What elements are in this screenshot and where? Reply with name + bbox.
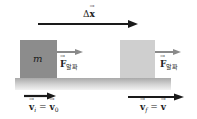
displacement-arrow: [38, 20, 138, 28]
block-final: [120, 40, 155, 78]
force-subscript: 알짜: [66, 63, 78, 70]
force-label-final: F알짜: [160, 59, 178, 69]
velocity-label-initial: vi = v0: [29, 102, 58, 112]
force-arrow-final: [155, 49, 181, 55]
equals-sign: =: [36, 102, 49, 112]
delta-symbol: Δ: [83, 9, 90, 19]
ground-surface: [15, 78, 171, 90]
velocity-sub: i: [34, 106, 36, 113]
velocity-var: v: [161, 102, 166, 112]
velocity-var: v: [49, 102, 54, 112]
velocity-sub: 0: [55, 106, 59, 113]
mass-label: m: [33, 53, 42, 64]
velocity-arrow-final: [128, 94, 184, 101]
velocity-label-final: vf = v: [140, 102, 166, 112]
displacement-label: Δx: [83, 9, 95, 19]
force-subscript: 알짜: [166, 63, 178, 70]
displacement-var: x: [90, 9, 95, 19]
force-label-initial: F알짜: [60, 59, 78, 69]
equals-sign: =: [147, 102, 160, 112]
